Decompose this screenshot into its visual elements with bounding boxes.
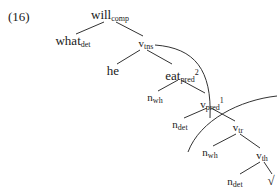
node-n-det: ndet: [172, 118, 187, 134]
node-v-tr: vtr: [233, 121, 243, 137]
node-v-th: vth: [256, 149, 268, 165]
node-n-wh-2: nwh: [202, 146, 217, 162]
node-root: √: [267, 174, 274, 187]
node-n-det-2: ndet: [227, 175, 242, 191]
node-he: he: [107, 64, 119, 77]
node-v-tns: vtns: [139, 37, 154, 53]
node-will-comp: willcomp: [91, 8, 129, 25]
node-what-det: whatdet: [55, 34, 90, 51]
node-eat-pred: eatpred2: [165, 66, 198, 86]
node-n-wh: nwh: [147, 91, 162, 107]
node-v-pred: vpred1: [200, 94, 224, 114]
tree-edges: [0, 0, 277, 194]
